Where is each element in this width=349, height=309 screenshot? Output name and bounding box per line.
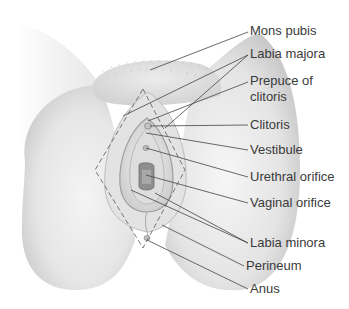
label-anus: Anus bbox=[250, 281, 280, 296]
label-vaginal-orifice: Vaginal orifice bbox=[250, 195, 331, 210]
label-vestibule: Vestibule bbox=[250, 142, 303, 157]
label-clitoris: Clitoris bbox=[250, 117, 290, 132]
label-labia-majora: Labia majora bbox=[250, 46, 325, 61]
label-prepuce-of-clitoris-line1: Prepuce of bbox=[250, 73, 313, 88]
label-labia-minora: Labia minora bbox=[250, 235, 325, 250]
label-mons-pubis: Mons pubis bbox=[250, 23, 316, 38]
label-perineum: Perineum bbox=[246, 258, 302, 273]
label-urethral-orifice: Urethral orifice bbox=[250, 169, 335, 184]
label-prepuce-of-clitoris-line2: clitoris bbox=[250, 89, 287, 104]
